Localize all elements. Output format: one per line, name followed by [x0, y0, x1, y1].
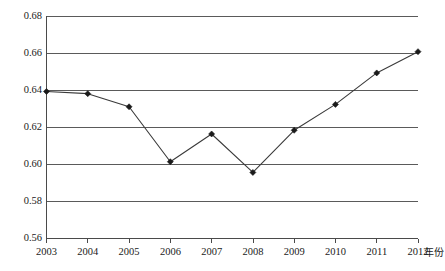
y-tick-label: 0.68	[24, 10, 42, 21]
y-tick-label: 0.60	[24, 158, 42, 169]
y-tick-label: 0.66	[24, 47, 42, 58]
chart-canvas: 0.68 0.66 0.64 0.62 0.60 0.58 0.56 2003 …	[0, 0, 445, 271]
x-tick-label: 2006	[160, 246, 181, 257]
x-tick-label: 2003	[36, 246, 57, 257]
x-tick-label: 2011	[367, 246, 388, 257]
y-tick-label: 0.62	[24, 121, 42, 132]
x-tick-label: 2008	[243, 246, 264, 257]
y-tick-label: 0.56	[24, 232, 42, 243]
x-axis-title: 年份	[424, 246, 444, 258]
chart-background	[0, 0, 445, 271]
y-tick-label: 0.58	[24, 195, 42, 206]
x-tick-label: 2009	[284, 246, 305, 257]
x-tick-label: 2007	[201, 246, 222, 257]
x-tick-label: 2005	[119, 246, 140, 257]
line-chart-figure: 0.68 0.66 0.64 0.62 0.60 0.58 0.56 2003 …	[0, 0, 445, 271]
x-tick-label: 2004	[77, 246, 99, 257]
y-tick-label: 0.64	[24, 84, 43, 95]
x-tick-label: 2010	[325, 246, 346, 257]
